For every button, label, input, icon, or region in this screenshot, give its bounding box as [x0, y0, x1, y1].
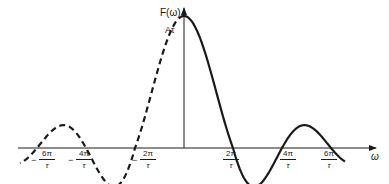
tick-den: τ — [223, 160, 239, 170]
tick-sign: − — [132, 155, 137, 165]
tick-den: τ — [39, 160, 55, 170]
peak-label: Aτ — [165, 26, 175, 35]
tick-den: τ — [280, 160, 296, 170]
tick-num: 2π — [140, 150, 156, 160]
tick-den: τ — [76, 160, 92, 170]
tick-num: 4π — [280, 150, 296, 160]
tick-sign: − — [68, 155, 73, 165]
y-axis-label: F(ω) — [160, 8, 181, 18]
tick-label-4pi: 4π τ — [280, 150, 296, 170]
tick-label-neg-2pi: 2π τ — [140, 150, 156, 170]
tick-num: 2π — [223, 150, 239, 160]
tick-den: τ — [140, 160, 156, 170]
tick-num: 4π — [76, 150, 92, 160]
tick-den: τ — [321, 160, 337, 170]
tick-sign: − — [31, 155, 36, 165]
x-axis-label: ω — [371, 152, 379, 162]
tick-label-6pi: 6π τ — [321, 150, 337, 170]
tick-num: 6π — [321, 150, 337, 160]
tick-label-neg-4pi: 4π τ — [76, 150, 92, 170]
tick-label-neg-6pi: 6π τ — [39, 150, 55, 170]
tick-num: 6π — [39, 150, 55, 160]
tick-label-2pi: 2π τ — [223, 150, 239, 170]
sinc-spectrum-diagram: F(ω) Aτ ω − 6π τ − 4π τ − 2π τ 2π τ 4π τ… — [0, 0, 389, 184]
